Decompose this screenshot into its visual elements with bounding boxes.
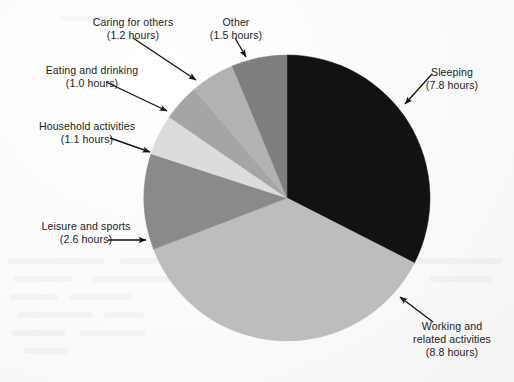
- label-leisure-value: (2.6 hours): [10, 233, 162, 246]
- label-other-value: (1.5 hours): [190, 29, 282, 42]
- label-working-title: Working and: [392, 320, 512, 333]
- label-sleeping: Sleeping (7.8 hours): [400, 66, 504, 92]
- label-other: Other (1.5 hours): [190, 16, 282, 42]
- label-working-and-related-activities: Working and related activities (8.8 hour…: [392, 320, 512, 360]
- label-household-title: Household activities: [8, 120, 166, 133]
- label-caring-for-others: Caring for others (1.2 hours): [58, 16, 208, 42]
- label-eating-and-drinking: Eating and drinking (1.0 hours): [12, 64, 172, 90]
- label-eating-title: Eating and drinking: [12, 64, 172, 77]
- label-household-activities: Household activities (1.1 hours): [8, 120, 166, 146]
- label-eating-value: (1.0 hours): [12, 77, 172, 90]
- label-working-value: (8.8 hours): [392, 346, 512, 359]
- label-caring-title: Caring for others: [58, 16, 208, 29]
- label-household-value: (1.1 hours): [8, 133, 166, 146]
- label-working-title2: related activities: [392, 333, 512, 346]
- label-other-title: Other: [190, 16, 282, 29]
- leader-line-working: [400, 297, 433, 322]
- pie-slices-group: [144, 55, 430, 341]
- label-sleeping-title: Sleeping: [400, 66, 504, 79]
- label-caring-value: (1.2 hours): [58, 29, 208, 42]
- label-leisure-title: Leisure and sports: [10, 220, 162, 233]
- pie-chart-figure: Caring for others (1.2 hours) Other (1.5…: [0, 0, 514, 382]
- label-sleeping-value: (7.8 hours): [400, 79, 504, 92]
- label-leisure-and-sports: Leisure and sports (2.6 hours): [10, 220, 162, 246]
